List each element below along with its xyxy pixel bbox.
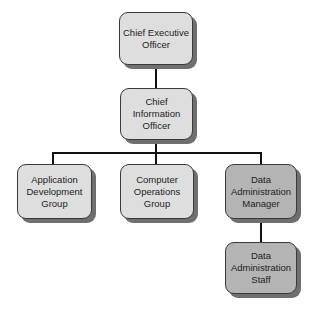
node-label: Data Administration Manager	[231, 174, 291, 210]
connector-bus-cog	[155, 152, 157, 164]
node-label: Chief Executive Officer	[123, 27, 189, 51]
node-data-administration-manager: Data Administration Manager	[225, 164, 297, 219]
node-label: Chief Information Officer	[133, 96, 181, 132]
node-label: Data Administration Staff	[231, 250, 291, 286]
node-chief-information-officer: Chief Information Officer	[120, 88, 193, 140]
connector-bus-dam	[260, 152, 262, 164]
node-data-administration-staff: Data Administration Staff	[225, 242, 297, 294]
node-label: Application Development Group	[27, 174, 83, 210]
node-chief-executive-officer: Chief Executive Officer	[119, 12, 193, 65]
node-computer-operations-group: Computer Operations Group	[120, 164, 194, 219]
connector-ceo-cio	[155, 65, 157, 88]
connector-dam-das	[260, 219, 262, 242]
connector-bus-adg	[52, 152, 54, 164]
connector-horizontal-bus	[52, 152, 262, 154]
node-label: Computer Operations Group	[134, 174, 180, 210]
node-application-development-group: Application Development Group	[17, 164, 92, 219]
